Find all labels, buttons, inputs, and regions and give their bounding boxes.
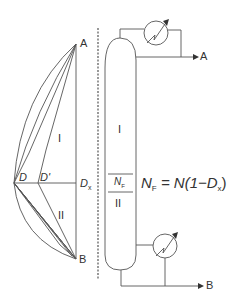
label-section-lower: II [115,198,121,209]
condenser-zigzag [147,24,165,43]
line-d-b-4 [14,183,76,259]
column-vessel [105,38,136,270]
label-point-b: B [79,254,86,265]
label-feed-stage: NF [114,177,125,187]
diagram-canvas [0,0,243,303]
label-point-d-prime: D' [40,172,50,183]
label-bottom-product: B [206,280,213,291]
label-point-d: D [19,172,27,183]
label-section-upper: I [118,124,121,135]
condenser-outlet-line [168,30,181,57]
overhead-vapor-line [120,29,144,38]
label-dx: Dx [80,178,91,189]
label-region-upper: I [58,133,61,144]
line-a-dprime-outer [29,44,76,153]
equation-feed-stage: NF = N(1−Dx) [141,175,227,190]
line-a-dprime [38,44,76,183]
reboiler-zigzag [156,237,174,256]
label-region-lower: II [58,210,64,221]
label-point-a: A [80,38,87,49]
arrow-bottom-product-icon [198,283,204,289]
bottom-product-line [121,270,198,286]
label-top-product: A [200,51,207,62]
arrow-top-product-icon [193,54,199,60]
